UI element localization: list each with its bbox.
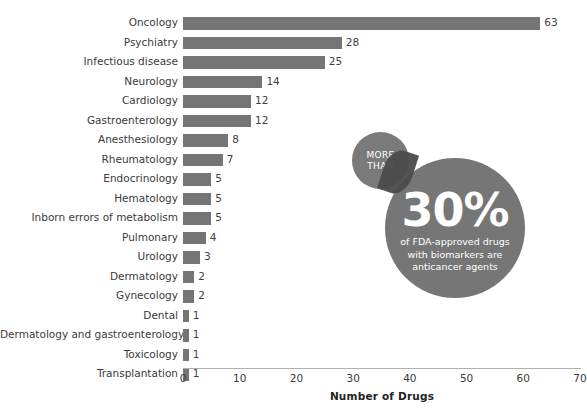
bar-value-label: 8	[232, 133, 239, 146]
bar-category-label: Infectious disease	[0, 55, 178, 68]
x-tick-label: 50	[460, 372, 473, 385]
bar-row: Neurology14	[183, 73, 580, 93]
percent-description-line3: anticancer agents	[400, 261, 509, 274]
bar-value-label: 5	[215, 192, 222, 205]
bar	[183, 173, 211, 186]
more-than-badge: MORE THAN	[352, 132, 409, 189]
clipped-chart-title	[183, 0, 581, 1]
x-tick-label: 60	[517, 372, 530, 385]
x-tick-label: 30	[346, 372, 359, 385]
x-tick-label: 20	[290, 372, 303, 385]
bar-value-label: 25	[329, 55, 342, 68]
percent-circle: 30% of FDA-approved drugs with biomarker…	[385, 158, 525, 298]
bar	[183, 193, 211, 206]
bar	[183, 17, 540, 30]
bar-category-label: Psychiatry	[0, 36, 178, 49]
bar-category-label: Dermatology and gastroenterology	[0, 328, 178, 341]
bar-category-label: Inborn errors of metabolism	[0, 211, 178, 224]
more-than-line2: THAN	[367, 161, 393, 172]
bar-category-label: Toxicology	[0, 348, 178, 361]
bar-row: Toxicology1	[183, 346, 580, 366]
bar-value-label: 1	[193, 328, 200, 341]
bar-category-label: Transplantation	[0, 367, 178, 380]
bar	[183, 329, 189, 342]
bar-category-label: Gynecology	[0, 289, 178, 302]
bar-category-label: Pulmonary	[0, 231, 178, 244]
bar-category-label: Anesthesiology	[0, 133, 178, 146]
bar-category-label: Cardiology	[0, 94, 178, 107]
bar	[183, 290, 194, 303]
bar-value-label: 7	[227, 153, 234, 166]
bar-value-label: 12	[255, 114, 268, 127]
bar	[183, 154, 223, 167]
x-tick-label: 0	[180, 372, 187, 385]
bar-value-label: 12	[255, 94, 268, 107]
x-tick-label: 70	[573, 372, 586, 385]
bar-category-label: Oncology	[0, 16, 178, 29]
bar-row: Dental1	[183, 307, 580, 327]
bar-value-label: 1	[193, 348, 200, 361]
bar-row: Dermatology and gastroenterology1	[183, 326, 580, 346]
bar-row: Psychiatry28	[183, 34, 580, 54]
bar	[183, 56, 325, 69]
bar-chart-figure: Oncology63Psychiatry28Infectious disease…	[0, 0, 587, 410]
bar	[183, 251, 200, 264]
bar-value-label: 5	[215, 211, 222, 224]
bar-category-label: Hematology	[0, 192, 178, 205]
bar	[183, 76, 262, 89]
bar-category-label: Dental	[0, 309, 178, 322]
bar-value-label: 14	[266, 75, 279, 88]
x-axis-title: Number of Drugs	[183, 390, 581, 402]
more-than-30-percent-callout: MORE THAN 30% of FDA-approved drugs with…	[350, 130, 530, 282]
bar-value-label: 2	[198, 270, 205, 283]
bar-row: Gynecology2	[183, 287, 580, 307]
bar-category-label: Rheumatology	[0, 153, 178, 166]
bar-value-label: 63	[544, 16, 557, 29]
x-axis-line	[183, 368, 581, 369]
bar-row: Gastroenterology12	[183, 112, 580, 132]
bar-category-label: Urology	[0, 250, 178, 263]
bar	[183, 232, 206, 245]
bar-value-label: 1	[193, 309, 200, 322]
bar	[183, 212, 211, 225]
bar	[183, 37, 342, 50]
x-tick-label: 10	[233, 372, 246, 385]
bar-row: Infectious disease25	[183, 53, 580, 73]
bar-value-label: 5	[215, 172, 222, 185]
bar-category-label: Endocrinology	[0, 172, 178, 185]
bar-row: Cardiology12	[183, 92, 580, 112]
bar	[183, 115, 251, 128]
percent-description: of FDA-approved drugs with biomarkers ar…	[400, 236, 509, 274]
bar-category-label: Dermatology	[0, 270, 178, 283]
bar	[183, 271, 194, 284]
percent-value: 30%	[401, 188, 508, 232]
bar	[183, 310, 189, 323]
bar	[183, 95, 251, 108]
bar-category-label: Neurology	[0, 75, 178, 88]
bar	[183, 134, 228, 147]
bar-value-label: 3	[204, 250, 211, 263]
bar-value-label: 2	[198, 289, 205, 302]
bar-value-label: 28	[346, 36, 359, 49]
percent-description-line2: with biomarkers are	[400, 249, 509, 262]
more-than-line1: MORE	[367, 150, 395, 161]
bar-category-label: Gastroenterology	[0, 114, 178, 127]
x-tick-label: 40	[403, 372, 416, 385]
bar	[183, 349, 189, 362]
bar-row: Oncology63	[183, 14, 580, 34]
bar-value-label: 4	[210, 231, 217, 244]
percent-description-line1: of FDA-approved drugs	[400, 236, 509, 249]
